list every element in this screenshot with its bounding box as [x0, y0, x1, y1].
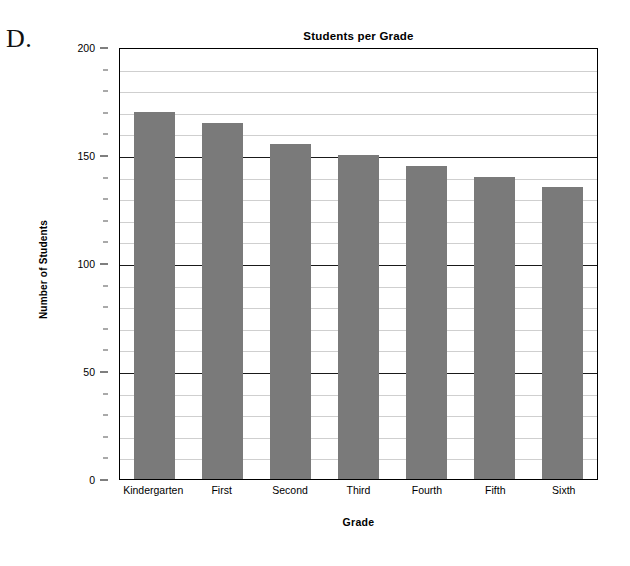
bar-slot — [393, 49, 461, 479]
y-tick-minor — [103, 436, 108, 437]
bar[interactable] — [338, 155, 379, 479]
y-tick-minor — [103, 393, 108, 394]
y-tick-label: 200 — [77, 42, 95, 54]
bar-slot — [256, 49, 324, 479]
bar[interactable] — [474, 177, 515, 479]
y-tick-minor — [103, 69, 108, 70]
y-tick-minor — [103, 177, 108, 178]
y-tick-minor — [103, 199, 108, 200]
x-tick-label: Second — [256, 484, 324, 496]
y-tick-label: 0 — [89, 474, 95, 486]
x-tick-label: Third — [324, 484, 392, 496]
y-tick-label: 100 — [77, 258, 95, 270]
bar-slot — [188, 49, 256, 479]
bar-slot — [324, 49, 392, 479]
y-axis: 050100150200 — [0, 48, 119, 480]
plot-area — [119, 48, 598, 480]
y-tick-minor — [103, 328, 108, 329]
x-tick-label: First — [187, 484, 255, 496]
y-tick-minor — [103, 112, 108, 113]
x-axis: KindergartenFirstSecondThirdFourthFifthS… — [119, 484, 598, 496]
y-tick-major — [100, 264, 108, 265]
y-tick-minor — [103, 91, 108, 92]
x-tick-label: Fourth — [393, 484, 461, 496]
y-tick-minor — [103, 220, 108, 221]
x-tick-label: Fifth — [461, 484, 529, 496]
y-tick-minor — [103, 307, 108, 308]
y-tick-label: 50 — [83, 366, 95, 378]
y-tick-major — [100, 372, 108, 373]
bar-slot — [461, 49, 529, 479]
y-tick-major — [100, 156, 108, 157]
x-axis-title: Grade — [119, 516, 598, 528]
y-tick-minor — [103, 350, 108, 351]
y-tick-major — [100, 48, 108, 49]
bar[interactable] — [134, 112, 175, 479]
y-tick-minor — [103, 415, 108, 416]
x-tick-label: Kindergarten — [119, 484, 187, 496]
y-tick-minor — [103, 458, 108, 459]
y-tick-minor — [103, 285, 108, 286]
chart-title: Students per Grade — [119, 30, 598, 42]
bars-layer — [120, 49, 597, 479]
y-tick-minor — [103, 134, 108, 135]
y-tick-label: 150 — [77, 150, 95, 162]
y-tick-major — [100, 480, 108, 481]
bar[interactable] — [406, 166, 447, 479]
bar[interactable] — [202, 123, 243, 479]
chart-figure: D. Students per Grade Number of Students… — [0, 0, 630, 566]
y-tick-minor — [103, 242, 108, 243]
x-tick-label: Sixth — [530, 484, 598, 496]
bar-slot — [120, 49, 188, 479]
bar[interactable] — [270, 144, 311, 479]
bar[interactable] — [542, 187, 583, 479]
bar-slot — [529, 49, 597, 479]
